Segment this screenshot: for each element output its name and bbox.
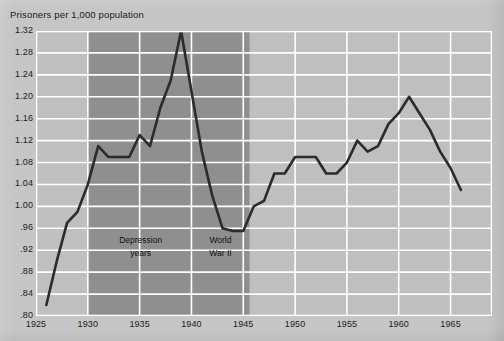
y-axis-tick-label: 1.12 — [15, 135, 33, 145]
plot-area: DepressionyearsWorldWar II — [36, 31, 492, 316]
y-axis-tick-label: 1.32 — [15, 25, 33, 35]
shaded-region — [88, 31, 250, 316]
x-axis-tick-labels: 192519301935194019451950195519601965 — [0, 319, 504, 339]
x-axis-tick-label: 1925 — [26, 319, 46, 329]
y-axis-tick-label: .84 — [20, 288, 33, 298]
x-axis-tick-label: 1940 — [181, 319, 201, 329]
y-axis-tick-label: .92 — [20, 244, 33, 254]
y-axis-tick-label: .88 — [20, 266, 33, 276]
chart-screenshot: Prisoners per 1,000 population 1.321.281… — [0, 0, 504, 341]
y-axis-tick-label: 1.28 — [15, 47, 33, 57]
x-axis-tick-label: 1955 — [337, 319, 357, 329]
annotation-depression-years: Depressionyears — [119, 234, 162, 259]
x-axis-tick-label: 1945 — [233, 319, 253, 329]
annotation-world-war-ii: WorldWar II — [209, 234, 231, 259]
shaded-region-layer — [88, 31, 250, 316]
annotation-line: Depression — [119, 234, 162, 247]
y-axis-tick-label: 1.20 — [15, 91, 33, 101]
x-axis-tick-label: 1950 — [285, 319, 305, 329]
y-axis-tick-label: 1.04 — [15, 178, 33, 188]
y-axis-tick-label: .96 — [20, 222, 33, 232]
y-axis-tick-label: 1.00 — [15, 200, 33, 210]
x-axis-tick-label: 1960 — [389, 319, 409, 329]
x-axis-tick-label: 1965 — [440, 319, 460, 329]
annotation-line: War II — [209, 247, 231, 260]
y-axis-tick-labels: 1.321.281.241.201.161.121.081.041.00.96.… — [0, 0, 33, 341]
annotation-line: years — [119, 247, 162, 260]
x-axis-tick-label: 1930 — [78, 319, 98, 329]
x-axis-tick-label: 1935 — [129, 319, 149, 329]
y-axis-tick-label: 1.24 — [15, 69, 33, 79]
y-axis-tick-label: 1.16 — [15, 113, 33, 123]
y-axis-tick-label: 1.08 — [15, 157, 33, 167]
annotation-line: World — [209, 234, 231, 247]
chart-plot-svg — [36, 31, 492, 316]
